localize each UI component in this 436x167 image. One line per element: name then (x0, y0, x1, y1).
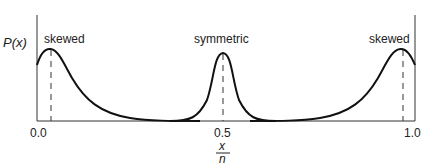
x-label-numerator: x (218, 139, 226, 153)
annotation-skewed-right: skewed (369, 32, 410, 46)
annotation-skewed-left: skewed (44, 32, 85, 46)
x-label-denominator: n (219, 152, 226, 166)
chart: P(x) skewed symmetric skewed 0.0 0.5 1.0… (0, 0, 436, 167)
x-tick-0.5: 0.5 (214, 126, 231, 140)
annotation-symmetric: symmetric (194, 32, 249, 46)
y-axis-label: P(x) (3, 35, 27, 50)
curve-skewed-right (250, 49, 415, 121)
curve-skewed-left (37, 49, 200, 121)
x-tick-0: 0.0 (30, 126, 47, 140)
x-tick-1: 1.0 (404, 126, 421, 140)
